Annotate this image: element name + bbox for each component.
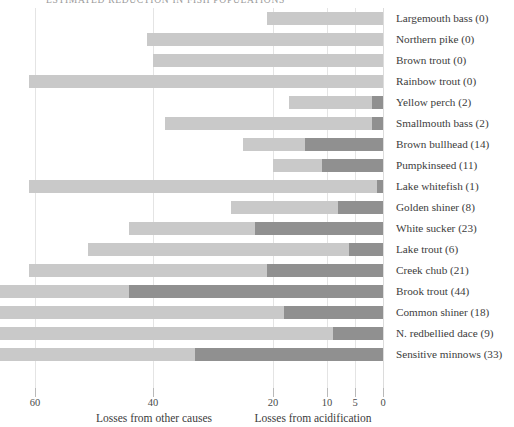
category-label: N. redbellied dace (9): [396, 327, 494, 340]
category-label: Golden shiner (8): [396, 201, 475, 214]
bar-segment-other-causes: [29, 264, 267, 277]
category-label: White sucker (23): [396, 222, 477, 235]
tick-mark-10: [327, 388, 328, 397]
bar-row: [0, 260, 390, 281]
bar-segment-other-causes: [289, 96, 372, 109]
bar-segment-other-causes: [29, 180, 377, 193]
tick-mark-0: [383, 388, 384, 397]
axis-caption-other-causes: Losses from other causes: [96, 412, 212, 424]
bar-segment-acidification: [372, 96, 383, 109]
bar-row: [0, 323, 390, 344]
category-label: Northern pike (0): [396, 33, 474, 46]
bar-segment-other-causes: [88, 243, 349, 256]
tick-label-10: 10: [322, 397, 333, 408]
bar-segment-other-causes: [129, 222, 255, 235]
bar-segment-other-causes: [231, 201, 338, 214]
bar-row: [0, 8, 390, 29]
bar-segment-acidification: [349, 243, 383, 256]
tick-label-40: 40: [148, 397, 159, 408]
bar-segment-acidification: [195, 348, 383, 361]
tick-label-5: 5: [352, 397, 357, 408]
bar-segment-other-causes: [165, 117, 372, 130]
bar-segment-acidification: [284, 306, 383, 319]
bar-segment-acidification: [255, 222, 383, 235]
category-label: Brown trout (0): [396, 54, 466, 67]
bar-segment-other-causes: [273, 159, 322, 172]
tick-mark-40: [153, 388, 154, 397]
bar-segment-acidification: [322, 159, 383, 172]
category-label: Lake trout (6): [396, 243, 458, 256]
chart-title: ESTIMATED REDUCTION IN FISH POPULATIONS: [46, 0, 285, 5]
bar-row: [0, 134, 390, 155]
bar-segment-other-causes: [267, 12, 383, 25]
bar-segment-other-causes: [243, 138, 305, 151]
bar-row: [0, 50, 390, 71]
category-label: Sensitive minnows (33): [396, 348, 502, 361]
bar-row: [0, 29, 390, 50]
bar-row: [0, 176, 390, 197]
bar-segment-acidification: [377, 180, 383, 193]
bar-row: [0, 155, 390, 176]
bar-segment-other-causes: [29, 75, 383, 88]
category-label: Creek chub (21): [396, 264, 469, 277]
category-label: Pumpkinseed (11): [396, 159, 477, 172]
bar-row: [0, 344, 390, 365]
bar-segment-other-causes: [0, 327, 333, 340]
bar-row: [0, 239, 390, 260]
tick-mark-60: [35, 388, 36, 397]
category-label: Common shiner (18): [396, 306, 489, 319]
bar-segment-acidification: [338, 201, 383, 214]
x-axis: 6040201050Losses from other causesLosses…: [0, 388, 390, 427]
category-label: Lake whitefish (1): [396, 180, 479, 193]
bar-segment-other-causes: [0, 285, 129, 298]
category-label: Yellow perch (2): [396, 96, 471, 109]
bar-segment-acidification: [372, 117, 383, 130]
bar-segment-other-causes: [0, 348, 195, 361]
plot-area: [0, 8, 390, 388]
bar-segment-acidification: [129, 285, 383, 298]
bar-row: [0, 197, 390, 218]
bar-segment-acidification: [333, 327, 383, 340]
category-label: Largemouth bass (0): [396, 12, 488, 25]
bar-row: [0, 218, 390, 239]
category-label: Brook trout (44): [396, 285, 469, 298]
fish-population-chart: ESTIMATED REDUCTION IN FISH POPULATIONS …: [0, 0, 514, 427]
axis-caption-acidification: Losses from acidification: [255, 412, 372, 424]
bar-segment-acidification: [305, 138, 383, 151]
category-label: Brown bullhead (14): [396, 138, 489, 151]
bar-segment-other-causes: [0, 306, 284, 319]
category-label: Smallmouth bass (2): [396, 117, 489, 130]
bar-segment-acidification: [267, 264, 383, 277]
bar-segment-other-causes: [153, 54, 383, 67]
tick-mark-5: [355, 388, 356, 397]
tick-label-20: 20: [268, 397, 279, 408]
tick-label-0: 0: [380, 397, 385, 408]
bar-row: [0, 113, 390, 134]
tick-mark-20: [273, 388, 274, 397]
bar-row: [0, 302, 390, 323]
bar-row: [0, 71, 390, 92]
bar-segment-other-causes: [147, 33, 383, 46]
category-label-column: Largemouth bass (0)Northern pike (0)Brow…: [390, 8, 514, 388]
tick-label-60: 60: [30, 397, 41, 408]
bar-row: [0, 92, 390, 113]
bar-row: [0, 281, 390, 302]
category-label: Rainbow trout (0): [396, 75, 476, 88]
